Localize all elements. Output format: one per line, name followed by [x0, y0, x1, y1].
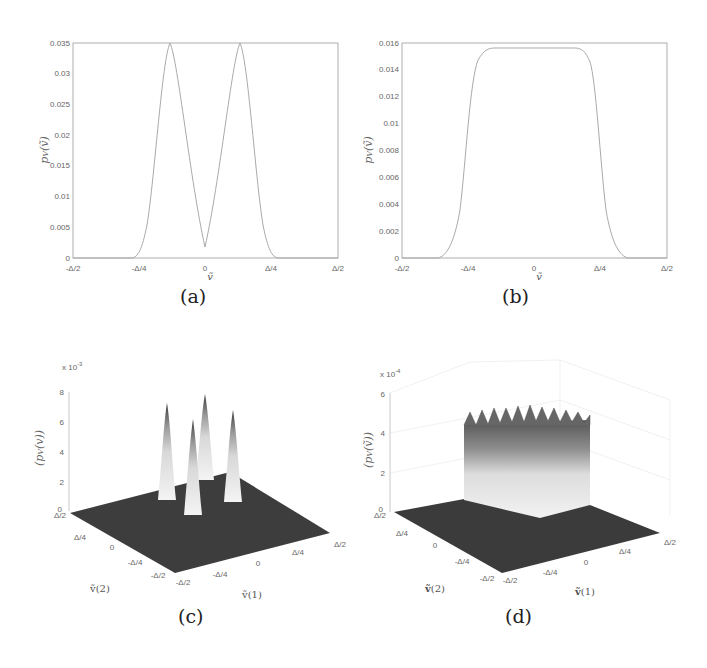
svg-text:0.012: 0.012 [379, 92, 400, 101]
svg-text:x 10-3: x 10-3 [62, 361, 83, 372]
svg-text:0.005: 0.005 [50, 223, 71, 232]
svg-text:4: 4 [60, 448, 65, 457]
svg-text:Δ/2: Δ/2 [54, 511, 67, 520]
svg-text:-Δ/2: -Δ/2 [66, 264, 81, 273]
svg-text:(pV(v)): (pV(v)) [33, 430, 46, 466]
svg-text:Δ/4: Δ/4 [619, 547, 632, 556]
svg-text:0.004: 0.004 [379, 200, 400, 209]
svg-text:-Δ/2: -Δ/2 [176, 578, 191, 587]
svg-text:0: 0 [256, 559, 261, 568]
svg-text:ṽ(1): ṽ(1) [574, 586, 595, 597]
svg-text:0.016: 0.016 [379, 39, 400, 48]
svg-text:0.02: 0.02 [54, 131, 70, 140]
svg-text:2: 2 [381, 469, 386, 478]
svg-text:0.006: 0.006 [379, 173, 400, 182]
svg-text:0.01: 0.01 [54, 192, 70, 201]
svg-text:Δ/4: Δ/4 [265, 264, 278, 273]
chart-panel-b: 0 0.002 0.004 0.006 0.008 0.01 0.012 0.0… [350, 0, 707, 320]
svg-text:Δ/2: Δ/2 [664, 538, 677, 547]
caption-c: (c) [178, 605, 203, 627]
svg-text:0.015: 0.015 [50, 161, 71, 170]
svg-text:Δ/4: Δ/4 [292, 548, 305, 557]
svg-text:2: 2 [60, 478, 65, 487]
svg-text:0.025: 0.025 [50, 100, 71, 109]
line-chart-b: 0 0.002 0.004 0.006 0.008 0.01 0.012 0.0… [350, 0, 707, 320]
svg-text:x 10-4: x 10-4 [380, 368, 401, 379]
svg-text:-Δ/2: -Δ/2 [503, 576, 518, 585]
chart-panel-a: 0 0.005 0.01 0.015 0.02 0.025 0.03 0.035… [0, 0, 350, 320]
svg-text:0: 0 [110, 543, 115, 552]
svg-text:0: 0 [395, 254, 400, 263]
svg-text:(pV(ṽ)): (pV(ṽ)) [362, 432, 375, 468]
svg-text:-Δ/2: -Δ/2 [480, 574, 495, 583]
svg-text:ṽ: ṽ [536, 271, 542, 282]
svg-text:0.035: 0.035 [50, 39, 71, 48]
svg-text:pV(ṽ): pV(ṽ) [362, 136, 375, 164]
svg-text:ṽ(2): ṽ(2) [424, 583, 445, 594]
svg-text:-Δ/4: -Δ/4 [213, 570, 228, 579]
svg-text:6: 6 [381, 390, 386, 399]
svg-text:0: 0 [433, 541, 438, 550]
svg-text:Δ/2: Δ/2 [332, 264, 345, 273]
caption-a: (a) [180, 285, 206, 307]
svg-text:Δ/2: Δ/2 [334, 540, 347, 549]
svg-text:ṽ: ṽ [207, 271, 213, 282]
svg-text:0.03: 0.03 [54, 69, 70, 78]
svg-text:pV(ṽ): pV(ṽ) [38, 136, 51, 164]
svg-text:Δ/2: Δ/2 [661, 264, 674, 273]
svg-text:ṽ(2): ṽ(2) [89, 583, 110, 594]
svg-text:0: 0 [584, 558, 589, 567]
svg-text:6: 6 [60, 418, 65, 427]
caption-d: (d) [505, 605, 532, 627]
svg-text:-Δ/4: -Δ/4 [455, 557, 470, 566]
svg-text:0.002: 0.002 [379, 227, 400, 236]
svg-text:-Δ/4: -Δ/4 [132, 264, 147, 273]
svg-text:Δ/4: Δ/4 [396, 529, 409, 538]
svg-text:4: 4 [381, 429, 386, 438]
line-chart-a: 0 0.005 0.01 0.015 0.02 0.025 0.03 0.035… [0, 0, 350, 320]
svg-text:-Δ/2: -Δ/2 [151, 571, 166, 580]
svg-text:Δ/2: Δ/2 [374, 511, 387, 520]
chart-panel-d: x 10-4 6 4 2 0 (pV(ṽ)) Δ/2 Δ/4 0 -Δ/4 -Δ… [350, 340, 707, 668]
svg-text:ṽ(1): ṽ(1) [241, 589, 262, 600]
svg-text:-Δ/4: -Δ/4 [543, 568, 558, 577]
svg-text:0.014: 0.014 [379, 65, 400, 74]
caption-b: (b) [502, 285, 529, 307]
svg-text:-Δ/4: -Δ/4 [128, 558, 143, 567]
svg-text:8: 8 [60, 388, 65, 397]
svg-text:0.01: 0.01 [383, 119, 399, 128]
svg-text:-Δ/2: -Δ/2 [395, 264, 410, 273]
svg-text:0: 0 [66, 254, 71, 263]
svg-text:-Δ/4: -Δ/4 [461, 264, 476, 273]
surface-chart-c: x 10-3 8 6 4 2 0 (pV(v)) Δ/2 Δ/4 0 -Δ/4 … [0, 340, 350, 668]
svg-text:Δ/4: Δ/4 [594, 264, 607, 273]
chart-panel-c: x 10-3 8 6 4 2 0 (pV(v)) Δ/2 Δ/4 0 -Δ/4 … [0, 340, 350, 668]
svg-text:0.008: 0.008 [379, 146, 400, 155]
svg-text:Δ/4: Δ/4 [74, 533, 87, 542]
